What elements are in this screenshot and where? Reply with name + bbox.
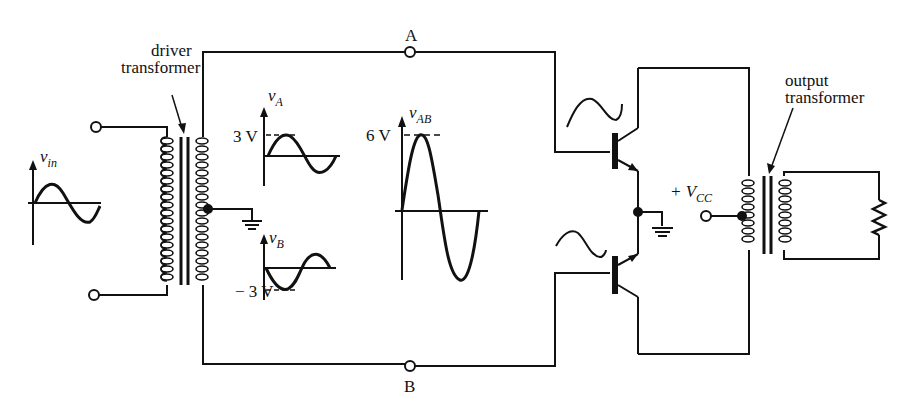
output-transformer-arrow xyxy=(767,108,793,174)
vb-label: vB xyxy=(269,229,284,246)
push-pull-amplifier-diagram: A B driver transformer output transforme… xyxy=(0,0,912,417)
vb-peak-label: − 3 V xyxy=(235,283,274,300)
driver-secondary-wiring xyxy=(203,52,405,364)
input-circuit xyxy=(89,122,167,300)
va-label: vA xyxy=(268,87,283,104)
driver-transformer-label-1: driver xyxy=(151,42,192,59)
driver-primary-coil xyxy=(161,137,173,281)
node-a-label: A xyxy=(405,27,417,44)
node-a-terminal[interactable] xyxy=(405,47,415,57)
va-peak-label: 3 V xyxy=(233,128,258,145)
output-transformer-label-1: output xyxy=(785,72,828,89)
output-primary-coil xyxy=(742,180,754,242)
upper-base-waveform xyxy=(567,99,622,127)
output-transformer-core xyxy=(764,176,771,254)
vcc-label: + VCC xyxy=(670,183,712,200)
driver-transformer-arrow xyxy=(172,95,186,134)
output-secondary-coil xyxy=(779,180,791,242)
vab-label: vAB xyxy=(409,104,431,121)
vin-waveform xyxy=(28,160,101,245)
lower-transistor xyxy=(612,254,638,354)
wire-b-to-lower-base xyxy=(415,273,610,366)
ground-symbol-emitter xyxy=(652,228,673,236)
driver-transformer-core xyxy=(181,137,188,285)
vab-peak-label: 6 V xyxy=(366,127,391,144)
vcc-terminal[interactable] xyxy=(701,211,711,221)
node-b-terminal[interactable] xyxy=(405,361,415,371)
vab-waveform xyxy=(395,116,488,280)
output-transformer-label-2: transformer xyxy=(785,89,864,106)
va-waveform xyxy=(260,107,340,186)
node-b-label: B xyxy=(404,378,415,395)
lower-base-waveform xyxy=(556,231,606,257)
load-resistor xyxy=(873,200,885,235)
ground-symbol-driver xyxy=(242,221,262,229)
vin-label: vin xyxy=(40,148,57,165)
driver-transformer-label-2: transformer xyxy=(121,59,200,76)
input-terminal-bottom[interactable] xyxy=(89,290,99,300)
input-terminal-top[interactable] xyxy=(91,122,101,132)
